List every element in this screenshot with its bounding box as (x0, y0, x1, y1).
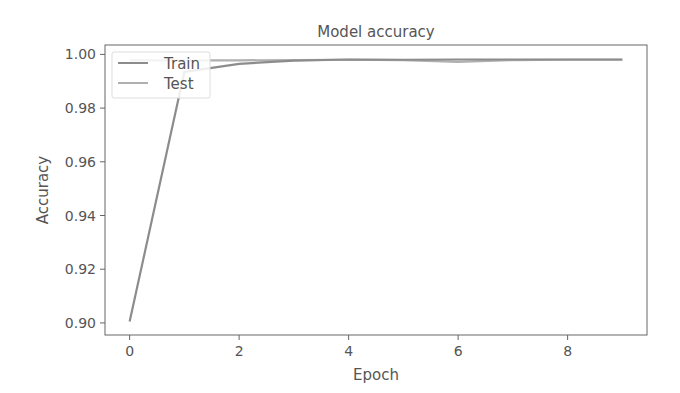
x-tick-label: 0 (125, 343, 134, 359)
accuracy-chart: Model accuracy 0.900.920.940.960.981.00 … (0, 0, 680, 393)
x-tick-label: 4 (344, 343, 353, 359)
y-tick-label: 0.92 (65, 261, 96, 277)
x-axis: 02468 (125, 335, 572, 359)
chart-title: Model accuracy (317, 23, 435, 41)
x-tick-label: 2 (235, 343, 244, 359)
y-tick-label: 0.96 (65, 154, 96, 170)
x-tick-label: 6 (454, 343, 463, 359)
y-tick-label: 0.90 (65, 315, 96, 331)
x-axis-label: Epoch (353, 366, 399, 384)
y-tick-label: 0.98 (65, 100, 96, 116)
legend: Train Test (112, 52, 210, 98)
y-axis: 0.900.920.940.960.981.00 (65, 46, 105, 331)
legend-test-label: Test (163, 75, 194, 93)
y-axis-label: Accuracy (34, 156, 52, 225)
legend-train-label: Train (163, 55, 200, 73)
x-tick-label: 8 (563, 343, 572, 359)
y-tick-label: 0.94 (65, 208, 96, 224)
y-tick-label: 1.00 (65, 46, 96, 62)
